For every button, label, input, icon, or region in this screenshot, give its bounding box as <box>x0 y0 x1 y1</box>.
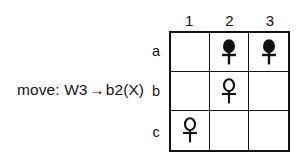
column-header-2: 2 <box>209 9 249 31</box>
cell-c1[interactable] <box>171 111 210 150</box>
black-ankh-piece-icon[interactable] <box>219 39 239 66</box>
row-header-b: b <box>145 71 167 111</box>
black-ankh-piece-icon[interactable] <box>259 39 279 66</box>
column-header-row: 1 2 3 <box>169 9 290 31</box>
cell-b2[interactable] <box>210 72 249 111</box>
arrow-right-icon: → <box>88 81 106 98</box>
cell-a1[interactable] <box>171 33 210 72</box>
row-header-column: a b c <box>145 31 167 152</box>
move-prefix-label: move: <box>17 81 60 99</box>
column-header-1: 1 <box>169 9 209 31</box>
cell-a3[interactable] <box>249 33 288 72</box>
move-target-label: b2(X) <box>106 81 144 99</box>
cell-b1[interactable] <box>171 72 210 111</box>
cell-c3[interactable] <box>249 111 288 150</box>
cell-a2[interactable] <box>210 33 249 72</box>
white-ankh-piece-icon[interactable] <box>180 117 200 144</box>
cell-b3[interactable] <box>249 72 288 111</box>
move-annotation: move: W3→b2(X) <box>17 80 142 100</box>
board: 1 2 3 a b c <box>145 6 295 156</box>
row-header-c: c <box>145 112 167 152</box>
white-ankh-piece-icon[interactable] <box>219 78 239 105</box>
move-source-label: W3 <box>64 81 87 99</box>
cell-c2[interactable] <box>210 111 249 150</box>
row-header-a: a <box>145 31 167 71</box>
grid <box>169 31 290 152</box>
column-header-3: 3 <box>250 9 290 31</box>
